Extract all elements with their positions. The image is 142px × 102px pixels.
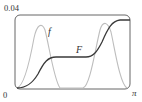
x-tick-label-pi: π [132, 88, 137, 98]
curve-F [17, 20, 130, 88]
curve-label-F: F [75, 44, 83, 55]
chart: 0.04 0 π f F [0, 0, 142, 102]
curve-label-f: f [48, 26, 52, 37]
y-tick-label-top: 0.04 [4, 3, 20, 13]
plot-frame [15, 15, 130, 89]
x-tick-label-origin: 0 [3, 90, 7, 100]
curve-f [17, 23, 127, 88]
